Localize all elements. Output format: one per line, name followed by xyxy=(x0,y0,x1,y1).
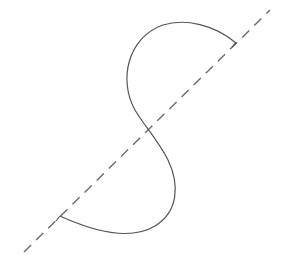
diagram-canvas xyxy=(0,0,282,273)
